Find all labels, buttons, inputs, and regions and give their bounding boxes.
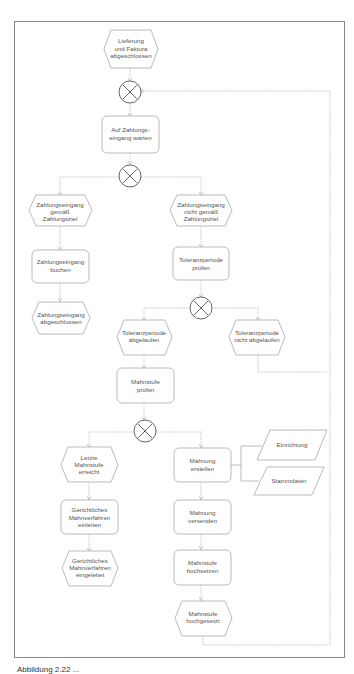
svg-text:Toleranzperiodenicht abgelaufe: Toleranzperiodenicht abgelaufen	[234, 329, 280, 343]
event-toleranzperiode-nicht-abgelaufen: Toleranzperiodenicht abgelaufen	[229, 320, 285, 355]
svg-text:Einrichtung: Einrichtung	[277, 441, 309, 448]
function-gerichtliches-mahnverfahren-einleiten: GerichtlichesMahnverfahreneinleiten	[61, 500, 118, 534]
function-auf-zahlungseingang-warten: Auf Zahlungs-eingang warten	[102, 116, 159, 153]
function-mahnstufe-hochsetzen: Mahnstufehochsetzen	[174, 550, 231, 585]
svg-text:Stammdaten: Stammdaten	[271, 477, 307, 484]
xor-operator-4	[134, 420, 156, 442]
event-gerichtliches-mahnverfahren-eingeleitet: GerichtlichesMahnverfahreneingeleitet	[62, 551, 118, 586]
event-mahnstufe-hochgesetzt: Mahnstufehochgesetzt	[175, 601, 232, 636]
event-zahlungseingang-nicht-gemaess: Zahlungseingangnicht gemäßZahlungsziel	[170, 195, 232, 226]
figure-caption: Abbildung 2.22 ...	[17, 665, 79, 674]
svg-text:Mahnungerstellen: Mahnungerstellen	[190, 457, 216, 472]
event-zahlungseingang-gemaess: ZahlungseinganggemäßZahlungsziel	[29, 195, 92, 226]
event-letzte-mahnstufe-erreicht: LetzteMahnstufeerreicht	[61, 447, 118, 482]
function-toleranzperiode-pruefen: Toleranzperiodeprüfen	[173, 247, 229, 280]
function-zahlungseingang-buchen: Zahlungseingangbuchen	[32, 250, 89, 283]
xor-operator-3	[190, 297, 212, 319]
svg-text:Mahnungversenden: Mahnungversenden	[188, 509, 217, 524]
svg-text:Zahlungseingangabgeschlossen: Zahlungseingangabgeschlossen	[37, 311, 85, 325]
function-mahnstufe-pruefen: Mahnstufeprüfen	[117, 368, 174, 403]
function-mahnung-versenden: Mahnungversenden	[174, 500, 231, 534]
svg-text:Mahnstufehochgesetzt: Mahnstufehochgesetzt	[186, 610, 220, 624]
svg-text:Mahnstufehochsetzen: Mahnstufehochsetzen	[187, 559, 219, 574]
event-toleranzperiode-abgelaufen: Toleranzperiodeabgelaufen	[117, 320, 172, 355]
event-zahlungseingang-abgeschlossen: Zahlungseingangabgeschlossen	[32, 302, 90, 334]
xor-operator-2	[119, 165, 141, 187]
xor-operator-1	[119, 81, 141, 103]
function-mahnung-erstellen: Mahnungerstellen	[174, 448, 231, 482]
event-lieferung-abgeschlossen: Lieferungund Fakturaabgeschlossen	[104, 30, 158, 68]
svg-text:Auf Zahlungs-eingang warten: Auf Zahlungs-eingang warten	[109, 126, 152, 141]
